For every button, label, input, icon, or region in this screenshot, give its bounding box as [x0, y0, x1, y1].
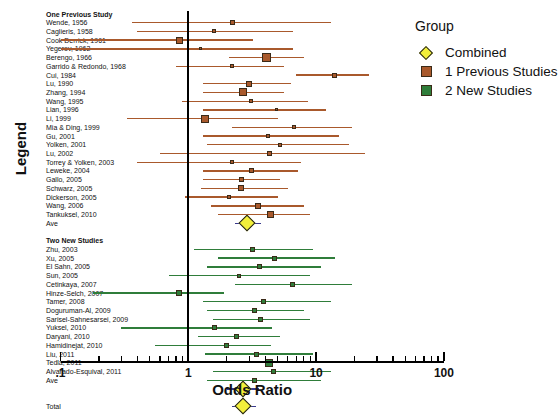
study-effect-marker [212, 29, 216, 33]
x-axis-minor-tick [415, 356, 416, 361]
study-effect-marker [254, 352, 259, 357]
study-effect-marker [262, 53, 271, 62]
x-axis-minor-tick [137, 356, 138, 361]
x-axis-major-tick [60, 352, 62, 361]
study-label: Garrido & Redondo, 1968 [46, 63, 126, 70]
x-axis-tick-label: 1 [158, 366, 218, 380]
x-axis-tick-label: 100 [414, 366, 474, 380]
x-axis-minor-tick [277, 356, 278, 361]
study-label: Ave [46, 220, 58, 227]
x-axis-minor-tick [175, 356, 176, 361]
legend-item: 1 Previous Studies [415, 62, 558, 81]
study-effect-marker [201, 115, 209, 123]
study-effect-marker [249, 99, 253, 103]
legend-item: Combined [415, 43, 558, 62]
study-label: Tamer, 2008 [46, 298, 85, 305]
x-axis-minor-tick [287, 356, 288, 361]
study-effect-marker [272, 256, 277, 261]
study-label: Wang, 2006 [46, 202, 84, 209]
x-axis-line [61, 361, 444, 363]
x-axis-minor-tick [296, 356, 297, 361]
legend-item-label: Combined [445, 45, 507, 60]
study-effect-marker [271, 369, 276, 374]
study-label: Mia & Ding, 1999 [46, 124, 100, 131]
study-effect-marker [224, 343, 229, 348]
square-icon [415, 85, 437, 96]
study-effect-marker [176, 37, 183, 44]
x-axis-minor-tick [265, 356, 266, 361]
study-effect-marker [332, 73, 337, 78]
x-axis-minor-tick [354, 356, 355, 361]
x-axis-minor-tick [437, 356, 438, 361]
study-effect-marker [239, 177, 244, 182]
x-axis-tick-label: 10 [286, 366, 346, 380]
confidence-interval-line [203, 301, 331, 302]
square-icon [415, 66, 437, 77]
x-axis-major-tick [188, 352, 190, 361]
study-effect-marker [230, 160, 234, 164]
study-label: Leweke, 2004 [46, 167, 90, 174]
confidence-interval-line [137, 162, 300, 163]
study-label: Dickerson, 2005 [46, 194, 97, 201]
study-effect-marker [239, 88, 247, 96]
study-effect-marker [267, 211, 274, 218]
study-effect-marker [238, 185, 244, 191]
study-label: Berengo, 1966 [46, 54, 92, 61]
confidence-interval-line [61, 48, 294, 49]
legend-item-label: 2 New Studies [445, 83, 532, 98]
study-effect-marker [230, 64, 234, 68]
confidence-interval-line [207, 266, 321, 267]
study-label: Wende, 1956 [46, 19, 88, 26]
x-axis-minor-tick [182, 356, 183, 361]
study-label: Lu, 2002 [46, 150, 73, 157]
study-label: Wang, 1995 [46, 98, 84, 105]
confidence-interval-line [205, 353, 313, 354]
x-axis-minor-tick [431, 356, 432, 361]
confidence-interval-line [155, 345, 270, 346]
x-axis-minor-tick [376, 356, 377, 361]
study-label: Li, 1999 [46, 115, 71, 122]
group-header-label: Two New Studies [46, 237, 103, 244]
x-axis-minor-tick [423, 356, 424, 361]
study-effect-marker [278, 143, 282, 147]
x-axis-major-tick [315, 352, 317, 361]
diamond-icon [415, 48, 437, 58]
x-axis-minor-tick [303, 356, 304, 361]
study-effect-marker [267, 151, 272, 156]
x-axis-minor-tick [249, 356, 250, 361]
study-label: Cui, 1984 [46, 72, 76, 79]
study-label: Lian, 1996 [46, 106, 79, 113]
study-effect-marker [255, 203, 261, 209]
study-effect-marker [212, 325, 217, 330]
x-axis-minor-tick [392, 356, 393, 361]
study-label: Zhu, 2003 [46, 246, 78, 253]
confidence-interval-line [218, 214, 311, 215]
study-label: Yolken, 2001 [46, 141, 86, 148]
study-label: Cetinkaya, 2007 [46, 281, 97, 288]
study-effect-marker [252, 308, 257, 313]
combined-estimate-diamond-icon [239, 215, 256, 232]
group-header-label: One Previous Study [46, 11, 113, 18]
study-effect-marker [257, 264, 262, 269]
confidence-interval-line [61, 39, 253, 40]
x-axis-minor-tick [159, 356, 160, 361]
combined-estimate-diamond-icon [235, 398, 252, 415]
study-effect-marker [199, 47, 202, 50]
legend-items: Combined1 Previous Studies2 New Studies [415, 43, 558, 100]
confidence-interval-line [203, 109, 326, 110]
x-axis-minor-tick [226, 356, 227, 361]
confidence-interval-line [121, 327, 271, 328]
confidence-interval-line [93, 292, 224, 293]
study-label: Daryani, 2010 [46, 333, 90, 340]
study-label: Hamidinejat, 2010 [46, 342, 102, 349]
x-axis-minor-tick [310, 356, 311, 361]
study-effect-marker [246, 81, 252, 87]
legend-item: 2 New Studies [415, 81, 558, 100]
x-axis-minor-tick [98, 356, 99, 361]
confidence-interval-line [182, 101, 307, 102]
study-effect-marker [261, 299, 266, 304]
study-effect-marker [227, 195, 231, 199]
study-label: Gu, 2001 [46, 133, 75, 140]
legend-title: Group [415, 18, 558, 34]
